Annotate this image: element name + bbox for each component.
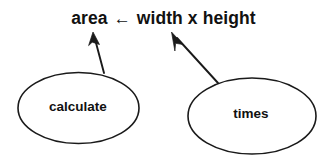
arrow-times-to-formula	[172, 32, 219, 83]
formula-rhs: width x height	[137, 8, 256, 28]
arrow-calculate-to-formula	[89, 32, 104, 73]
assignment-arrow-icon: ←	[113, 9, 132, 28]
diagram-canvas: area ← width x height calculate times	[0, 0, 327, 158]
node-label-times: times	[212, 106, 290, 121]
formula-lhs: area	[71, 8, 107, 28]
node-label-calculate: calculate	[28, 99, 128, 114]
formula-expression: area ← width x height	[0, 8, 327, 29]
arrowhead-calculate	[89, 32, 100, 46]
